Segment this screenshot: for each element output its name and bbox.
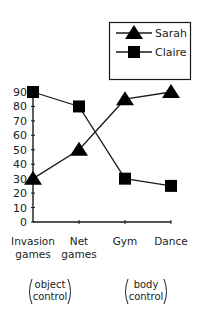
y-tick-label: 80 <box>13 100 27 113</box>
legend: SarahClaire <box>110 23 191 80</box>
group-label-line: control <box>129 291 164 302</box>
legend-label: Sarah <box>155 27 187 40</box>
data-point-square-marker <box>119 173 131 185</box>
group-label-body: bodycontrol <box>126 279 167 304</box>
y-tick-label: 20 <box>13 187 27 200</box>
data-point-square-marker <box>165 180 177 192</box>
series-sarah <box>24 84 180 185</box>
y-tick-label: 70 <box>13 115 27 128</box>
group-labels: objectcontrolbodycontrol <box>30 279 167 304</box>
x-category-label: Net <box>70 235 88 247</box>
y-tick-label: 50 <box>13 144 27 157</box>
right-paren <box>68 279 71 304</box>
legend-square-marker <box>128 46 140 58</box>
group-label-line: control <box>33 291 68 302</box>
axes: 0102030405060708090 <box>13 86 171 229</box>
x-category-label: games <box>61 248 96 260</box>
x-category-label: Invasion <box>11 235 55 247</box>
y-tick-label: 40 <box>13 158 27 171</box>
x-axis-labels: InvasiongamesNetgamesGymDance <box>11 235 188 260</box>
data-point-triangle-marker <box>162 84 180 98</box>
left-paren <box>30 279 33 304</box>
y-tick-label: 0 <box>20 216 27 229</box>
line-chart: SarahClaire 0102030405060708090 Invasion… <box>0 0 199 313</box>
left-paren <box>126 279 129 304</box>
x-category-label: Gym <box>113 235 138 247</box>
series-claire <box>27 86 177 192</box>
x-category-label: games <box>15 248 50 260</box>
group-label-line: body <box>134 279 159 290</box>
series-line <box>33 92 171 179</box>
x-category-label: Dance <box>154 235 187 247</box>
data-point-square-marker <box>27 86 39 98</box>
right-paren <box>164 279 167 304</box>
data-point-triangle-marker <box>70 142 88 156</box>
y-tick-label: 90 <box>13 86 27 99</box>
y-tick-label: 60 <box>13 129 27 142</box>
group-label-object: objectcontrol <box>30 279 71 304</box>
legend-label: Claire <box>155 46 187 59</box>
series-line <box>33 92 171 186</box>
y-tick-label: 10 <box>13 202 27 215</box>
series-group <box>24 84 180 192</box>
data-point-square-marker <box>73 100 85 112</box>
group-label-line: object <box>35 279 66 290</box>
